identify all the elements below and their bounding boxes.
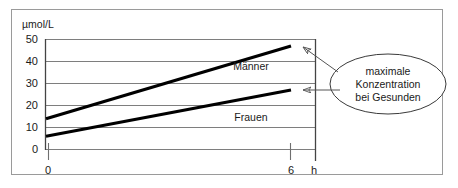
callout-line-2: Konzentration xyxy=(356,78,421,90)
callout-line-1: maximale xyxy=(366,65,411,77)
y-axis-unit-label: µmol/L xyxy=(22,18,54,30)
plot-frame xyxy=(46,39,316,161)
axis-ticks xyxy=(49,143,291,160)
x-tick-label-0: 0 xyxy=(45,164,51,176)
series-label-frauen: Frauen xyxy=(234,111,267,123)
series-line-maenner xyxy=(46,46,291,119)
y-tick-label-50: 50 xyxy=(26,33,38,45)
y-tick-label-30: 30 xyxy=(26,77,38,89)
y-tick-label-20: 20 xyxy=(26,99,38,111)
y-tick-label-40: 40 xyxy=(26,55,38,67)
callout-arrow-to-maenner xyxy=(303,47,338,72)
series-label-maenner: Männer xyxy=(233,60,269,72)
x-axis-unit-label: h xyxy=(311,164,317,176)
y-tick-label-10: 10 xyxy=(26,121,38,133)
line-chart: µmol/L 50 40 30 20 10 0 0 6 h xyxy=(0,0,458,188)
callout-line-3: bei Gesunden xyxy=(355,91,421,103)
y-tick-label-0: 0 xyxy=(32,143,38,155)
figure-container: µmol/L 50 40 30 20 10 0 0 6 h xyxy=(0,0,458,188)
x-tick-label-6: 6 xyxy=(288,164,294,176)
